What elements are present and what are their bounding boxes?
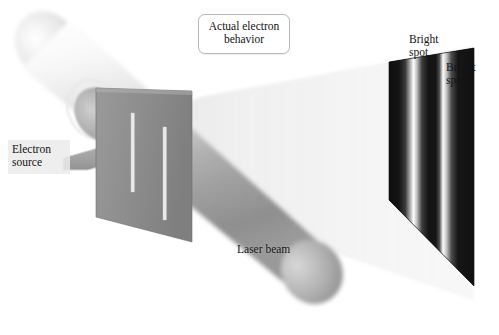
slit-right — [163, 127, 166, 220]
laser-beam-label: Laser beam — [237, 243, 290, 256]
electron-source-label: Electron source — [8, 140, 70, 174]
slit-left — [131, 113, 134, 192]
bright-spot-label-2: Bright spot — [446, 61, 475, 88]
barrier-plate — [96, 88, 192, 242]
callout-actual-electron-behavior: Actual electron behavior — [198, 14, 290, 54]
bright-spot-label-1: Bright spot — [409, 33, 438, 60]
physics-diagram: Actual electron behavior Electron source… — [0, 0, 499, 335]
